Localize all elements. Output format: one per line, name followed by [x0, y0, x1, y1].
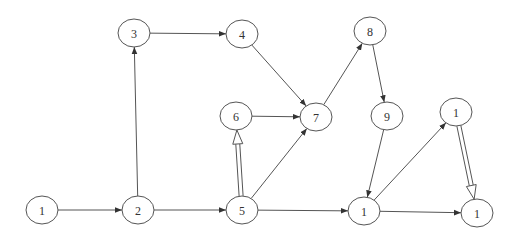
arrow-edge-n5-n10 — [258, 210, 348, 211]
node-label: 5 — [239, 204, 245, 218]
graph-node-n10: 1 — [348, 197, 380, 225]
arrow-edge-n6-n7 — [252, 116, 300, 117]
arrow-edge-n3-n4 — [150, 33, 226, 34]
directed-graph: 123456789111 — [0, 0, 521, 235]
arrow-edge-n10-n12 — [380, 211, 461, 212]
node-label: 1 — [39, 204, 45, 218]
node-label: 8 — [367, 25, 373, 39]
graph-node-n6: 6 — [220, 102, 252, 130]
hollow-arrowhead-icon — [466, 185, 476, 200]
node-label: 6 — [233, 110, 239, 124]
arrow-edge-n7-n8 — [324, 43, 363, 104]
arrow-edge-n5-n7 — [251, 128, 307, 198]
graph-node-n1: 1 — [26, 196, 58, 224]
node-label: 1 — [474, 207, 480, 221]
node-label: 1 — [361, 205, 367, 219]
graph-node-n11: 1 — [440, 98, 472, 126]
graph-node-n3: 3 — [118, 19, 150, 47]
nodes-layer: 123456789111 — [26, 17, 493, 227]
double-arrow-edge-n11-n12 — [457, 125, 476, 199]
double-arrow-edge-n5-n6 — [233, 130, 243, 196]
node-label: 3 — [131, 27, 137, 41]
graph-node-n5: 5 — [226, 196, 258, 224]
graph-node-n7: 7 — [300, 103, 332, 131]
node-label: 1 — [453, 106, 459, 120]
graph-node-n2: 2 — [122, 196, 154, 224]
arrow-edge-n4-n7 — [252, 45, 306, 106]
arrow-edge-n2-n3 — [134, 47, 137, 196]
graph-node-n12: 1 — [461, 199, 493, 227]
arrow-edge-n8-n9 — [373, 45, 384, 102]
graph-node-n4: 4 — [226, 20, 258, 48]
node-label: 2 — [135, 204, 141, 218]
arrow-edge-n10-n11 — [374, 123, 446, 200]
graph-node-n8: 8 — [354, 17, 386, 45]
hollow-arrowhead-icon — [233, 130, 243, 144]
arrow-edge-n9-n10 — [367, 130, 383, 198]
node-label: 7 — [313, 111, 319, 125]
graph-node-n9: 9 — [371, 102, 403, 130]
node-label: 9 — [384, 110, 390, 124]
node-label: 4 — [239, 28, 245, 42]
edges-layer — [58, 33, 476, 213]
